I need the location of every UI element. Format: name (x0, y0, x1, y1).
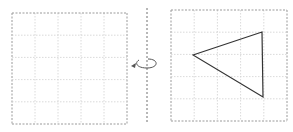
arrow-head (131, 63, 136, 68)
left-grid (12, 13, 127, 124)
arrow-curve (137, 59, 157, 68)
rotation-arrow-icon (131, 59, 156, 68)
right-grid (171, 10, 287, 121)
triangle-shape (193, 32, 263, 97)
rotation-diagram (0, 0, 293, 132)
